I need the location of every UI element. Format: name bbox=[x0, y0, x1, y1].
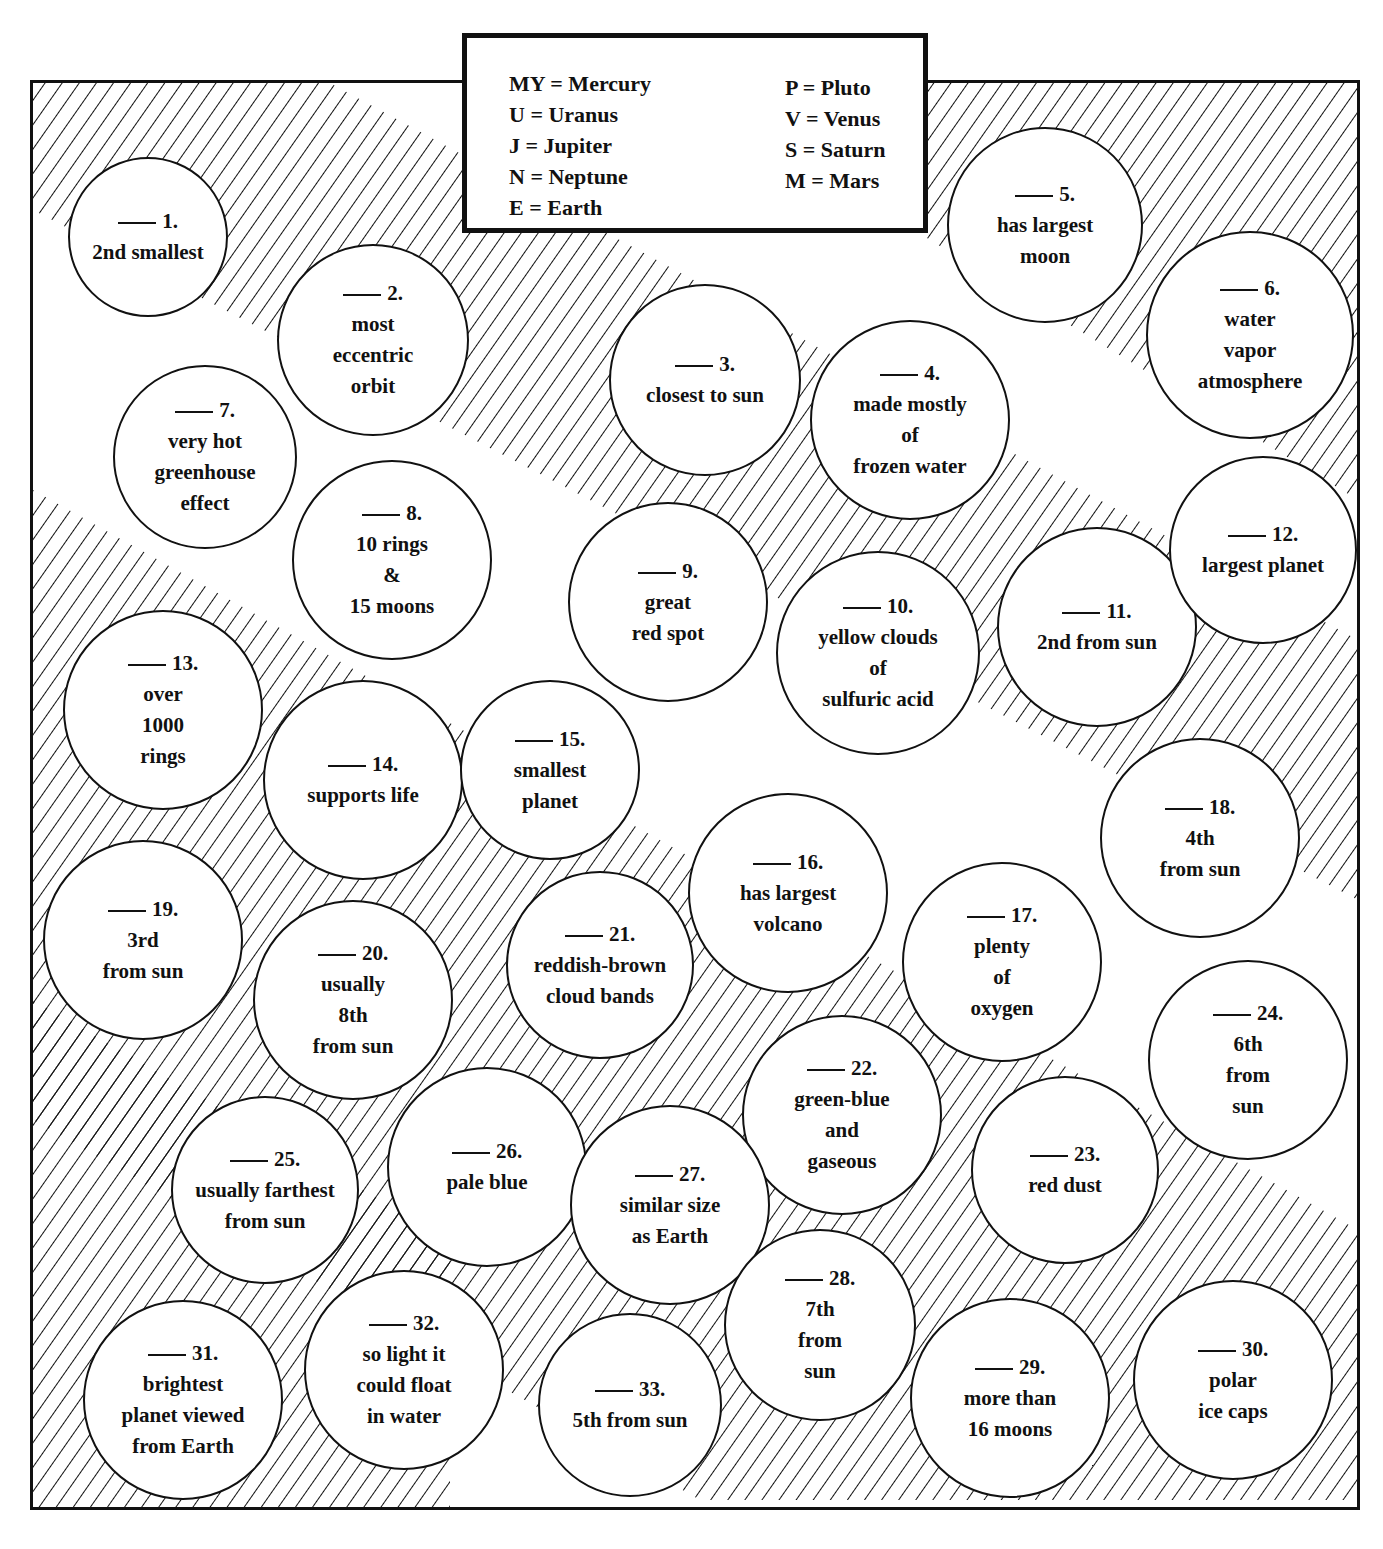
clue-text: sun bbox=[1232, 1091, 1264, 1122]
legend-left-column: MY = Mercury U = Uranus J = Jupiter N = … bbox=[509, 68, 651, 223]
answer-blank[interactable] bbox=[1220, 289, 1258, 291]
answer-blank[interactable] bbox=[369, 1324, 407, 1326]
answer-blank[interactable] bbox=[108, 910, 146, 912]
answer-blank[interactable] bbox=[230, 1160, 268, 1162]
clue-text: volcano bbox=[754, 909, 823, 940]
answer-blank[interactable] bbox=[1228, 535, 1266, 537]
clue-text: green-blue bbox=[794, 1084, 889, 1115]
clue-text: red dust bbox=[1028, 1170, 1102, 1201]
question-circle: 18.4thfrom sun bbox=[1100, 738, 1300, 938]
answer-blank[interactable] bbox=[1213, 1014, 1251, 1016]
answer-blank[interactable] bbox=[880, 374, 918, 376]
clue-text: 3rd bbox=[127, 925, 159, 956]
number-label: 15. bbox=[559, 727, 585, 751]
clue-text: oxygen bbox=[971, 993, 1034, 1024]
clue-text: polar bbox=[1209, 1365, 1257, 1396]
number-label: 4. bbox=[924, 361, 940, 385]
question-circle: 24.6thfromsun bbox=[1148, 960, 1348, 1160]
question-circle: 23.red dust bbox=[971, 1076, 1159, 1264]
question-number: 11. bbox=[1062, 596, 1131, 627]
answer-blank[interactable] bbox=[1165, 808, 1203, 810]
question-circle: 20.usually8thfrom sun bbox=[253, 900, 453, 1100]
clue-text: orbit bbox=[351, 371, 395, 402]
answer-blank[interactable] bbox=[565, 935, 603, 937]
question-number: 5. bbox=[1015, 179, 1075, 210]
question-circle: 32.so light itcould floatin water bbox=[304, 1270, 504, 1470]
clue-text: closest to sun bbox=[646, 380, 764, 411]
answer-blank[interactable] bbox=[635, 1175, 673, 1177]
question-number: 21. bbox=[565, 919, 635, 950]
question-circle: 19.3rdfrom sun bbox=[43, 840, 243, 1040]
answer-blank[interactable] bbox=[975, 1368, 1013, 1370]
number-label: 16. bbox=[797, 850, 823, 874]
question-number: 24. bbox=[1213, 998, 1283, 1029]
question-circle: 13.over1000rings bbox=[63, 610, 263, 810]
clue-text: more than bbox=[964, 1383, 1056, 1414]
clue-text: from bbox=[1226, 1060, 1270, 1091]
legend-entry: U = Uranus bbox=[509, 99, 651, 130]
clue-text: 7th bbox=[805, 1294, 834, 1325]
answer-blank[interactable] bbox=[638, 572, 676, 574]
question-number: 20. bbox=[318, 938, 388, 969]
answer-blank[interactable] bbox=[515, 740, 553, 742]
number-label: 17. bbox=[1011, 903, 1037, 927]
clue-text: eccentric bbox=[333, 340, 413, 371]
question-number: 4. bbox=[880, 358, 940, 389]
legend-entry: N = Neptune bbox=[509, 161, 651, 192]
legend-entry: M = Mars bbox=[785, 165, 886, 196]
answer-blank[interactable] bbox=[1030, 1155, 1068, 1157]
answer-blank[interactable] bbox=[452, 1152, 490, 1154]
question-number: 9. bbox=[638, 556, 698, 587]
question-circle: 33.5th from sun bbox=[538, 1313, 722, 1497]
question-circle: 28.7thfromsun bbox=[724, 1229, 916, 1421]
legend-entry: V = Venus bbox=[785, 103, 886, 134]
number-label: 5. bbox=[1059, 182, 1075, 206]
clue-text: moon bbox=[1020, 241, 1070, 272]
clue-text: effect bbox=[181, 488, 230, 519]
answer-blank[interactable] bbox=[1198, 1350, 1236, 1352]
clue-text: very hot bbox=[168, 426, 242, 457]
question-number: 8. bbox=[362, 498, 422, 529]
answer-blank[interactable] bbox=[1062, 612, 1100, 614]
question-number: 17. bbox=[967, 900, 1037, 931]
clue-text: 15 moons bbox=[350, 591, 435, 622]
clue-text: from bbox=[798, 1325, 842, 1356]
answer-blank[interactable] bbox=[128, 664, 166, 666]
clue-text: planet viewed bbox=[121, 1400, 244, 1431]
answer-blank[interactable] bbox=[595, 1390, 633, 1392]
question-circle: 14.supports life bbox=[263, 680, 463, 880]
question-circle: 29.more than16 moons bbox=[910, 1298, 1110, 1498]
number-label: 12. bbox=[1272, 522, 1298, 546]
question-circle: 11.2nd from sun bbox=[997, 527, 1197, 727]
question-number: 22. bbox=[807, 1053, 877, 1084]
clue-text: and bbox=[825, 1115, 859, 1146]
answer-blank[interactable] bbox=[175, 411, 213, 413]
answer-blank[interactable] bbox=[807, 1069, 845, 1071]
clue-text: red spot bbox=[632, 618, 705, 649]
question-circle: 16.has largestvolcano bbox=[688, 793, 888, 993]
clue-text: sulfuric acid bbox=[822, 684, 933, 715]
answer-blank[interactable] bbox=[967, 916, 1005, 918]
answer-blank[interactable] bbox=[675, 365, 713, 367]
number-label: 32. bbox=[413, 1311, 439, 1335]
answer-blank[interactable] bbox=[328, 765, 366, 767]
clue-text: of bbox=[901, 420, 919, 451]
answer-blank[interactable] bbox=[343, 294, 381, 296]
question-circle: 2.mosteccentricorbit bbox=[277, 244, 469, 436]
answer-blank[interactable] bbox=[318, 954, 356, 956]
answer-blank[interactable] bbox=[148, 1354, 186, 1356]
question-circle: 8.10 rings&15 moons bbox=[292, 460, 492, 660]
answer-blank[interactable] bbox=[843, 607, 881, 609]
number-label: 20. bbox=[362, 941, 388, 965]
clue-text: 4th bbox=[1185, 823, 1214, 854]
answer-blank[interactable] bbox=[753, 863, 791, 865]
clue-text: plenty bbox=[974, 931, 1030, 962]
answer-blank[interactable] bbox=[1015, 195, 1053, 197]
answer-blank[interactable] bbox=[118, 222, 156, 224]
number-label: 18. bbox=[1209, 795, 1235, 819]
clue-text: sun bbox=[804, 1356, 836, 1387]
number-label: 22. bbox=[851, 1056, 877, 1080]
question-number: 15. bbox=[515, 724, 585, 755]
answer-blank[interactable] bbox=[362, 514, 400, 516]
answer-blank[interactable] bbox=[785, 1279, 823, 1281]
